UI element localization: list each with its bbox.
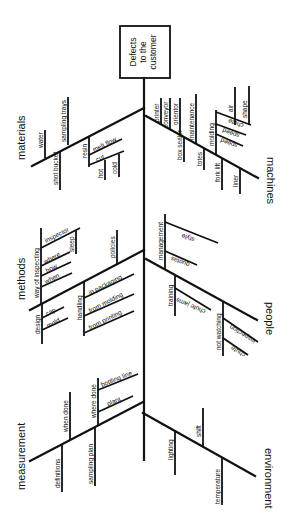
cause-way-of-inspecting: way of inspecting	[33, 248, 41, 299]
cause-policies: policies	[109, 236, 117, 258]
branch-people: people management style quotas training …	[146, 214, 276, 359]
sub-plant: plant	[106, 395, 122, 408]
category-people: people	[264, 302, 276, 335]
effect-line-1: Defects	[128, 38, 138, 67]
category-environment: environment	[263, 448, 275, 509]
sub-inspection: inspection	[228, 323, 257, 345]
sub-chute-jams: chute jams	[174, 296, 207, 316]
cause-totes: totes	[196, 151, 203, 166]
sub-quotas: quotas	[169, 254, 191, 268]
sub-cold: cold	[111, 162, 118, 174]
sub-chute-2: chute	[229, 345, 247, 360]
category-measurement: measurement	[15, 423, 27, 490]
fishbone-diagram: Defects to the customer materials water …	[0, 0, 290, 531]
effect-box: Defects to the customer	[120, 26, 170, 78]
sub-hot: hot	[97, 169, 104, 178]
cause-molding: molding	[208, 123, 216, 146]
sub-cut: cut	[94, 153, 105, 163]
cause-conveyor: conveyor	[162, 101, 170, 128]
branch-machines: machines printer conveyor orientor box s…	[146, 86, 277, 205]
cause-maintenance: maintenance	[188, 102, 195, 140]
cause-where-done: where done	[90, 384, 97, 419]
cause-sampling-plan: sampling plan	[87, 444, 95, 484]
cause-training: training	[167, 284, 175, 306]
cause-not-watching: not watching	[215, 313, 223, 350]
category-machines: machines	[265, 157, 277, 205]
cause-box-sealer: box sealer	[176, 129, 183, 160]
branch-materials: materials water shot bucket sampling tra…	[15, 97, 144, 190]
cause-management: management	[157, 222, 165, 260]
cause-definitions: definitions	[54, 458, 61, 488]
sub-cap: cap	[44, 306, 57, 318]
cause-design: design	[34, 314, 42, 334]
cause-shot-bucket: shot bucket	[52, 152, 59, 185]
cause-air: air	[227, 104, 234, 112]
cause-orientor: orientor	[172, 102, 179, 125]
cause-fork-lift: fork lift	[214, 163, 221, 182]
cause-shape: shape	[241, 100, 249, 118]
branch-methods: methods way of inspecting inspector slee…	[15, 225, 144, 344]
sub-sleep: sleep	[68, 236, 76, 252]
cause-water: water	[37, 131, 44, 149]
branch-environment: environment lighting shift temperature	[143, 408, 275, 509]
sub-melt-flow: melt flow	[91, 135, 117, 153]
cause-resin: resin	[81, 144, 88, 158]
cause-when-done: when done	[62, 400, 69, 433]
cause-handling: handling	[76, 295, 84, 320]
category-methods: methods	[15, 257, 27, 300]
sub-bottling-line: bottling line	[100, 369, 134, 389]
cause-lighting: lighting	[167, 439, 175, 460]
effect-line-3: customer	[148, 34, 158, 69]
branch-measurement: measurement definitions when done sampli…	[15, 369, 143, 492]
cause-sampling-trays: sampling trays	[60, 99, 68, 142]
cause-liner: liner	[232, 174, 239, 187]
cause-temperature: temperature	[214, 469, 222, 504]
cause-printer: printer	[153, 103, 161, 122]
category-materials: materials	[15, 115, 27, 160]
sub-mold: mold	[45, 316, 61, 329]
cause-shift: shift	[195, 425, 202, 437]
effect-line-2: to the	[138, 41, 148, 63]
